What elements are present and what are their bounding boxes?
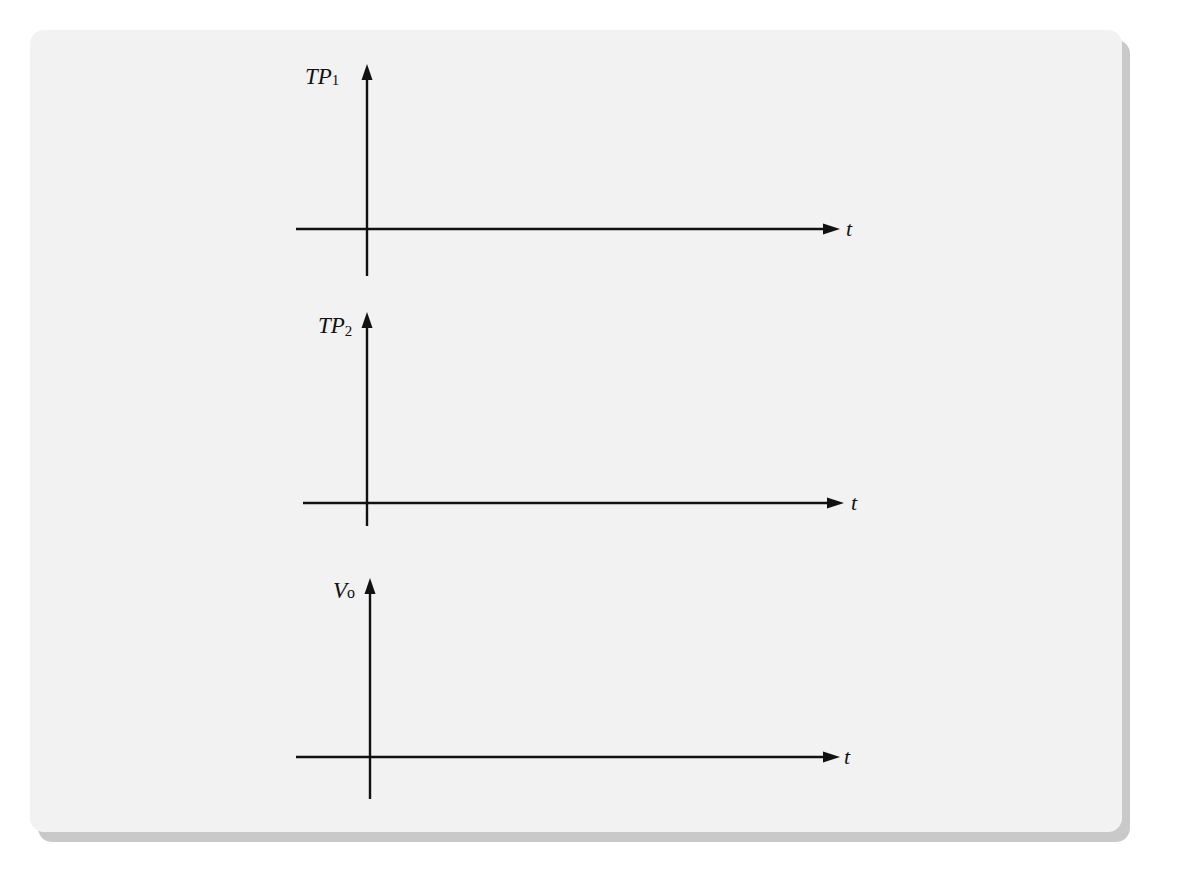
graph-tp1: TP1 t xyxy=(296,64,853,276)
x-axis-label: t xyxy=(846,216,853,241)
x-axis-arrow-icon xyxy=(827,498,844,509)
graph-tp2: TP2 t xyxy=(303,312,858,526)
x-axis-label: t xyxy=(844,744,851,769)
y-axis-arrow-icon xyxy=(362,64,373,80)
y-axis-label: TP2 xyxy=(318,313,352,339)
y-axis-label: TP1 xyxy=(305,64,339,89)
y-axis-arrow-icon xyxy=(365,578,376,594)
x-axis-arrow-icon xyxy=(823,752,840,763)
x-axis-label: t xyxy=(851,490,858,515)
graph-vo: Vo t xyxy=(296,578,851,799)
y-axis-label: Vo xyxy=(333,578,355,603)
timing-diagram: TP1 t TP2 t Vo t xyxy=(0,0,1182,873)
x-axis-arrow-icon xyxy=(823,224,840,235)
y-axis-arrow-icon xyxy=(362,312,373,328)
